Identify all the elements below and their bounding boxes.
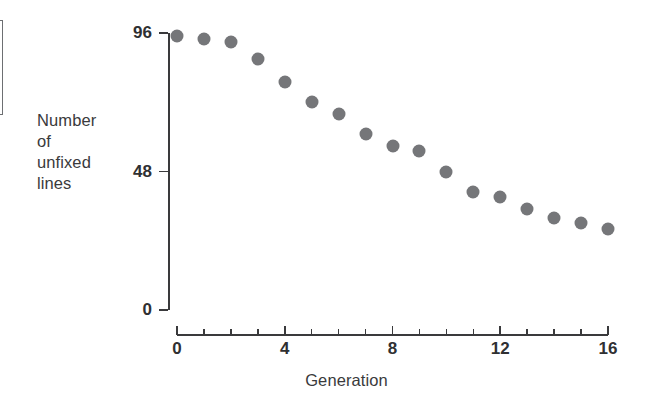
y-axis-title-line-1: Number <box>37 110 147 131</box>
y-tick-label-text: 0 <box>143 301 152 318</box>
y-axis-title-line-3: unfixed <box>37 152 147 173</box>
data-point <box>602 223 615 236</box>
x-tick-minor-2 <box>230 329 232 335</box>
data-point <box>440 165 453 178</box>
x-tick-minor-5 <box>311 329 313 335</box>
data-point <box>305 96 318 109</box>
x-tick-minor-1 <box>203 329 205 335</box>
x-tick-minor-13 <box>526 329 528 335</box>
x-tick-minor-14 <box>553 329 555 335</box>
x-tick-label-8: 8 <box>388 340 397 357</box>
data-point <box>251 52 264 65</box>
y-tick-96 <box>159 32 168 34</box>
x-tick-label-0: 0 <box>172 340 181 357</box>
data-point <box>413 145 426 158</box>
x-tick-minor-6 <box>338 329 340 335</box>
y-tick-0 <box>159 309 168 311</box>
x-tick-major-12 <box>499 326 501 335</box>
x-axis-endcap-16 <box>607 326 609 335</box>
x-tick-major-4 <box>284 326 286 335</box>
data-point <box>548 211 561 224</box>
chart-figure: 04896 0481216 Number of unfixed lines Ge… <box>0 0 649 414</box>
x-tick-minor-3 <box>257 329 259 335</box>
data-point <box>332 107 345 120</box>
data-point <box>467 185 480 198</box>
x-tick-minor-11 <box>473 329 475 335</box>
data-point <box>278 76 291 89</box>
data-point <box>359 127 372 140</box>
y-tick-48 <box>159 171 168 173</box>
y-axis-title-line-4: lines <box>37 173 147 194</box>
x-tick-minor-15 <box>580 329 582 335</box>
x-tick-minor-7 <box>365 329 367 335</box>
data-point <box>521 203 534 216</box>
data-point <box>171 29 184 42</box>
y-axis-title-line-2: of <box>37 131 147 152</box>
x-tick-label-12: 12 <box>491 340 510 357</box>
data-point <box>224 35 237 48</box>
data-point <box>494 191 507 204</box>
x-axis-title: Generation <box>0 371 649 390</box>
x-tick-minor-10 <box>446 329 448 335</box>
plot-area: 04896 0481216 <box>0 0 649 414</box>
x-tick-major-8 <box>392 326 394 335</box>
data-point <box>197 32 210 45</box>
data-point <box>575 217 588 230</box>
x-axis-title-text: Generation <box>305 371 388 389</box>
x-axis-endcap-0 <box>176 326 178 335</box>
x-tick-label-16: 16 <box>599 340 618 357</box>
y-axis-title: Number of unfixed lines <box>37 110 147 194</box>
y-tick-label-text: 96 <box>133 24 152 41</box>
x-tick-minor-9 <box>419 329 421 335</box>
x-tick-label-4: 4 <box>280 340 289 357</box>
y-axis-line <box>168 33 170 310</box>
data-point <box>386 139 399 152</box>
